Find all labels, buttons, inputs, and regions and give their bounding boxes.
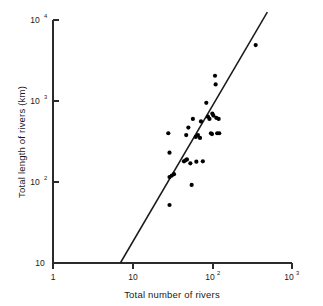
y-tick-label-10000-exponent: 4 — [44, 13, 48, 19]
data-point — [185, 157, 189, 161]
data-point — [166, 131, 170, 135]
y-axis-ticks — [53, 20, 59, 263]
data-point — [210, 132, 214, 136]
data-points-group — [166, 43, 258, 207]
x-tick-label-100-mantissa: 10 — [205, 272, 215, 282]
x-axis-ticks — [53, 263, 292, 269]
data-point — [198, 136, 202, 140]
x-axis-title: Total number of rivers — [124, 289, 220, 300]
data-point — [191, 117, 195, 121]
data-point — [172, 172, 176, 176]
y-axis-tick-labels: 10 4 10 3 10 2 10 — [30, 13, 48, 268]
y-tick-label-1000-exponent: 3 — [44, 94, 47, 100]
x-tick-label-1000-mantissa: 10 — [284, 272, 294, 282]
data-point — [190, 183, 194, 187]
data-point — [217, 131, 221, 135]
data-point — [207, 117, 211, 121]
data-point — [201, 159, 205, 163]
x-tick-label-10-mantissa: 10 — [128, 272, 138, 282]
data-point — [254, 43, 258, 47]
data-point — [217, 117, 221, 121]
y-tick-label-1000-mantissa: 10 — [30, 96, 40, 106]
y-tick-label-10000-mantissa: 10 — [30, 15, 40, 25]
data-point — [204, 101, 208, 105]
data-point — [194, 160, 198, 164]
x-axis-tick-labels: 1 10 10 2 10 3 — [51, 270, 300, 282]
y-tick-label-100-mantissa: 10 — [30, 177, 40, 187]
data-point — [188, 161, 192, 165]
data-point — [199, 119, 203, 123]
x-tick-label-1000-exponent: 3 — [296, 270, 299, 276]
scatter-plot-figure: 10 4 10 3 10 2 10 1 10 10 2 10 3 Total n… — [0, 0, 323, 306]
axes-group — [53, 20, 292, 263]
x-tick-label-100-exponent: 2 — [217, 270, 220, 276]
plot-canvas: 10 4 10 3 10 2 10 1 10 10 2 10 3 Total n… — [0, 0, 323, 306]
y-axis-title: Total length of rivers (km) — [16, 86, 27, 198]
y-tick-label-10-mantissa: 10 — [35, 258, 45, 268]
data-point — [213, 74, 217, 78]
y-tick-label-100-exponent: 2 — [44, 175, 47, 181]
data-point — [167, 151, 171, 155]
data-point — [186, 125, 190, 129]
x-tick-label-1-mantissa: 1 — [51, 272, 56, 282]
data-point — [167, 203, 171, 207]
data-point — [214, 82, 218, 86]
data-point — [184, 133, 188, 137]
